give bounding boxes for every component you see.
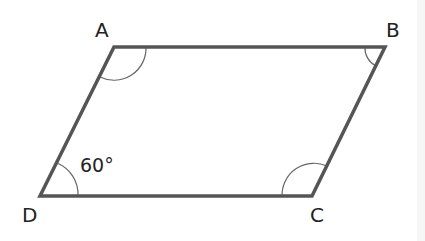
parallelogram-diagram: A B C D 60°	[0, 0, 425, 241]
vertex-label-b: B	[386, 18, 400, 42]
vertex-label-a: A	[95, 18, 109, 42]
vertex-label-d: D	[22, 203, 37, 227]
angle-label-d: 60°	[80, 154, 114, 176]
angle-arc-b	[365, 47, 376, 66]
vertex-label-c: C	[310, 203, 324, 227]
angle-arc-d	[57, 163, 78, 196]
